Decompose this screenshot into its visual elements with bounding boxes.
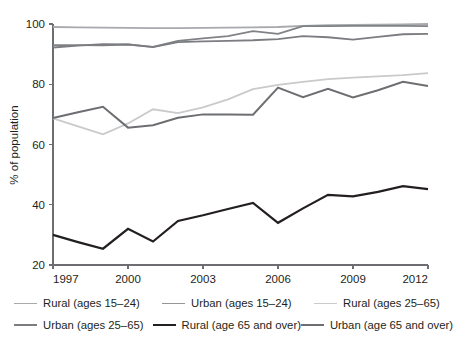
legend-line-swatch	[162, 303, 185, 304]
x-tick-label: 2009	[340, 273, 366, 285]
x-axis: 199720002003200620092012	[53, 265, 428, 285]
legend-row-2: Urban (ages 25–65)Rural (age 65 and over…	[14, 314, 453, 336]
legend-line-swatch	[14, 324, 37, 326]
legend-item[interactable]: Rural (age 65 and over)	[153, 319, 301, 331]
y-tick-label: 60	[32, 139, 45, 151]
legend-item[interactable]: Urban (age 65 and over)	[301, 319, 453, 331]
legend-row-1: Rural (ages 15–24)Urban (ages 15–24)Rura…	[14, 292, 453, 314]
legend-item-label: Urban (ages 25–65)	[43, 319, 143, 331]
y-tick-label: 20	[32, 259, 45, 271]
y-axis: 20406080100	[26, 18, 53, 271]
legend-item[interactable]: Urban (ages 15–24)	[162, 297, 314, 309]
line-chart-svg: 20406080100 199720002003200620092012 % o…	[0, 0, 459, 288]
series-line	[53, 82, 428, 128]
legend-line-swatch	[153, 324, 176, 326]
series-line	[53, 73, 428, 134]
legend-line-swatch	[314, 303, 337, 304]
y-axis-ticks: 20406080100	[26, 18, 53, 271]
legend-item-label: Rural (ages 25–65)	[343, 297, 440, 309]
series-line	[53, 186, 428, 249]
legend-line-swatch	[301, 324, 324, 326]
legend-item-label: Urban (age 65 and over)	[330, 319, 453, 331]
legend-item-label: Rural (age 65 and over)	[182, 319, 301, 331]
plot-area: 20406080100 199720002003200620092012 % o…	[0, 0, 459, 288]
chart-legend: Rural (ages 15–24)Urban (ages 15–24)Rura…	[0, 292, 459, 341]
x-tick-label: 2006	[265, 273, 291, 285]
y-tick-label: 80	[32, 78, 45, 90]
x-tick-label: 2012	[402, 273, 428, 285]
y-axis-label: % of population	[8, 105, 20, 184]
y-tick-label: 40	[32, 199, 45, 211]
x-tick-label: 1997	[53, 273, 79, 285]
legend-item[interactable]: Rural (ages 15–24)	[14, 297, 162, 309]
chart-figure: 20406080100 199720002003200620092012 % o…	[0, 0, 459, 341]
x-tick-label: 2003	[190, 273, 216, 285]
data-series-group	[53, 24, 428, 249]
x-axis-ticks: 199720002003200620092012	[53, 265, 428, 285]
legend-item-label: Rural (ages 15–24)	[43, 297, 140, 309]
legend-item[interactable]: Urban (ages 25–65)	[14, 319, 153, 331]
legend-item[interactable]: Rural (ages 25–65)	[314, 297, 440, 309]
legend-line-swatch	[14, 303, 37, 304]
legend-item-label: Urban (ages 15–24)	[191, 297, 291, 309]
y-tick-label: 100	[26, 18, 45, 30]
x-tick-label: 2000	[115, 273, 141, 285]
